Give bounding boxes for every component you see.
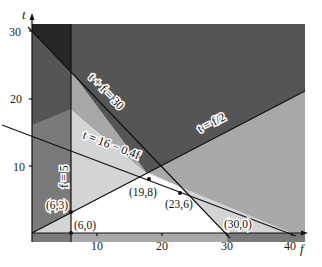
y-axis-label: t [22,7,26,22]
point-19-8 [147,177,151,181]
y-tick-label-20: 20 [10,92,22,106]
linear-programming-chart: 30 20 10 10 20 30 40 t f t + f = 30 t = … [0,0,322,267]
x-tick-label-40: 40 [284,239,296,253]
point-label-23-6: (23,6) [165,198,193,211]
point-23-6 [178,191,182,195]
y-tick-label-30: 30 [9,25,21,39]
point-label-30-0: (30,0) [224,218,252,231]
y-axis-arrow-icon [30,13,35,20]
x-tick-label-30: 30 [221,239,233,253]
y-tick-label-10: 10 [13,160,25,174]
x-tick-label-10: 10 [91,239,103,253]
point-6-3 [69,210,73,214]
region-below-axis-left [32,233,71,242]
point-label-6-0: (6,0) [74,219,96,232]
point-6-0 [69,231,73,235]
x-axis-label: f [300,241,306,256]
point-label-19-8: (19,8) [129,186,157,199]
x-tick-label-20: 20 [156,239,168,253]
point-label-6-3: (6,3) [46,199,68,212]
label-f-5: f = 5 [57,165,71,188]
